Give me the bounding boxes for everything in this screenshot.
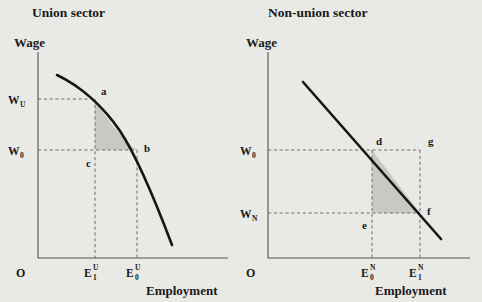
- non-union-x-tick-e0-base: E: [361, 267, 369, 279]
- panel-non-union-y-axis-title: Wage: [246, 35, 277, 50]
- union-y-tick-wu-base: W: [8, 94, 20, 106]
- non-union-x-tick-e0-sup: N: [370, 263, 376, 272]
- union-x-tick-e0: E 0 U: [126, 263, 141, 282]
- union-point-label-c: c: [86, 157, 91, 169]
- union-y-tick-w0-sub: 0: [20, 151, 24, 160]
- union-x-tick-e1-sub: 1: [93, 273, 97, 282]
- non-union-x-tick-e0: E 0 N: [361, 263, 376, 282]
- non-union-y-tick-wn: W N: [240, 208, 258, 223]
- panel-union-y-axis-title: Wage: [14, 35, 45, 50]
- panel-union-title: Union sector: [32, 5, 105, 20]
- non-union-x-tick-e1: E 1 N: [409, 263, 424, 282]
- non-union-point-label-g: g: [428, 135, 434, 147]
- economics-diagram: Union sector Wage W U W 0 O: [0, 0, 482, 302]
- non-union-y-tick-wn-base: W: [240, 208, 252, 220]
- union-x-tick-e0-sup: U: [135, 263, 141, 272]
- diagram-canvas: Union sector Wage W U W 0 O: [0, 0, 482, 302]
- non-union-point-label-d: d: [376, 135, 382, 147]
- union-x-tick-e0-sub: 0: [135, 273, 139, 282]
- non-union-axes: [268, 52, 470, 258]
- union-y-tick-w0-base: W: [8, 145, 20, 157]
- union-point-label-a: a: [101, 85, 107, 97]
- non-union-x-tick-e1-base: E: [409, 267, 417, 279]
- panel-non-union: Non-union sector Wage W 0 W N: [240, 5, 470, 298]
- union-x-tick-e1-sup: U: [93, 263, 99, 272]
- panel-union: Union sector Wage W U W 0 O: [8, 5, 228, 298]
- non-union-x-tick-e1-sub: 1: [418, 273, 422, 282]
- union-y-tick-wu-sub: U: [20, 100, 26, 109]
- union-x-tick-e1-base: E: [84, 267, 92, 279]
- non-union-y-tick-wn-sub: N: [252, 214, 258, 223]
- non-union-x-tick-e0-sub: 0: [370, 273, 374, 282]
- union-point-label-b: b: [144, 142, 150, 154]
- non-union-shaded-gain-region: [372, 150, 420, 213]
- non-union-y-tick-w0-base: W: [240, 145, 252, 157]
- non-union-point-label-f: f: [427, 205, 431, 217]
- union-y-tick-w0: W 0: [8, 145, 24, 160]
- panel-non-union-x-axis-title: Employment: [375, 283, 447, 298]
- non-union-origin-label: O: [246, 266, 255, 280]
- union-y-tick-wu: W U: [8, 94, 26, 109]
- non-union-y-tick-w0-sub: 0: [252, 151, 256, 160]
- non-union-x-tick-e1-sup: N: [418, 263, 424, 272]
- non-union-point-label-e: e: [362, 219, 367, 231]
- panel-non-union-title: Non-union sector: [268, 5, 367, 20]
- union-x-tick-e0-base: E: [126, 267, 134, 279]
- union-labour-demand-curve: [57, 75, 172, 245]
- non-union-y-tick-w0: W 0: [240, 145, 256, 160]
- union-origin-label: O: [16, 266, 25, 280]
- union-x-tick-e1: E 1 U: [84, 263, 99, 282]
- panel-union-x-axis-title: Employment: [146, 283, 218, 298]
